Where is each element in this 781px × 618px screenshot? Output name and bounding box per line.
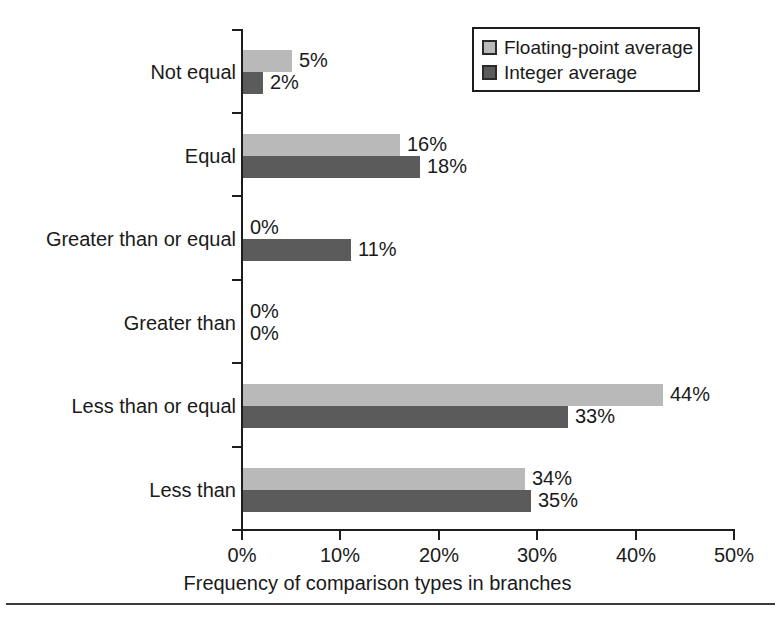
bar-integer-not-equal <box>243 72 263 94</box>
bar-value-floating-equal: 16% <box>407 133 447 155</box>
plot-area: Not equal 5% 2% Equal 16% 18% <box>0 0 781 618</box>
legend-swatch-icon-integer <box>482 65 497 80</box>
bar-floating-not-equal <box>243 50 292 72</box>
bar-value-floating-less-than-or-equal: 44% <box>670 383 710 405</box>
x-axis-tick <box>635 531 637 540</box>
y-axis-tick <box>232 279 242 281</box>
x-axis-tick <box>536 531 538 540</box>
y-axis-tick <box>232 29 242 31</box>
x-axis-tick-label-30: 30% <box>492 543 582 567</box>
bar-value-integer-greater-than-or-equal: 11% <box>358 238 397 260</box>
x-axis-line <box>241 529 735 531</box>
x-axis-tick-label-40: 40% <box>591 543 681 567</box>
x-axis-tick-label-50: 50% <box>689 543 779 567</box>
bar-floating-less-than-or-equal <box>243 384 663 406</box>
bar-value-integer-greater-than: 0% <box>250 322 279 344</box>
bar-chart-figure: Not equal 5% 2% Equal 16% 18% <box>0 0 781 618</box>
legend-label-integer-average: Integer average <box>504 62 637 83</box>
x-axis-tick-label-0: 0% <box>197 543 287 567</box>
bar-integer-less-than <box>243 490 531 512</box>
legend-label-floating-point-average: Floating-point average <box>504 37 693 58</box>
bar-value-floating-greater-than: 0% <box>250 300 279 322</box>
legend-item-integer-average: Integer average <box>482 60 698 85</box>
y-axis-tick <box>232 446 242 448</box>
chart-legend: Floating-point average Integer average <box>472 27 700 92</box>
x-axis-tick <box>438 531 440 540</box>
bar-value-integer-less-than-or-equal: 33% <box>575 405 615 427</box>
y-axis-tick <box>232 362 242 364</box>
bar-value-floating-less-than: 34% <box>532 467 572 489</box>
x-axis-tick <box>241 531 243 540</box>
bar-value-integer-equal: 18% <box>427 155 467 177</box>
category-label-greater-than-or-equal: Greater than or equal <box>0 228 236 250</box>
bar-integer-greater-than-or-equal <box>243 239 351 261</box>
category-label-greater-than: Greater than <box>0 312 236 334</box>
bar-floating-less-than <box>243 468 525 490</box>
y-axis-tick <box>232 112 242 114</box>
bottom-divider <box>6 603 775 605</box>
x-axis-tick <box>339 531 341 540</box>
bar-integer-less-than-or-equal <box>243 406 568 428</box>
category-label-less-than-or-equal: Less than or equal <box>0 395 236 417</box>
x-axis-tick-label-10: 10% <box>295 543 385 567</box>
bar-value-integer-less-than: 35% <box>538 489 578 511</box>
x-axis-tick-label-20: 20% <box>394 543 484 567</box>
x-axis-title: Frequency of comparison types in branche… <box>184 571 572 595</box>
bar-value-integer-not-equal: 2% <box>270 71 299 93</box>
bar-value-floating-not-equal: 5% <box>299 49 328 71</box>
bar-value-floating-greater-than-or-equal: 0% <box>250 216 279 238</box>
category-label-less-than: Less than <box>0 479 236 501</box>
bar-floating-equal <box>243 134 400 156</box>
y-axis-tick <box>232 195 242 197</box>
category-label-not-equal: Not equal <box>0 61 236 83</box>
legend-swatch-icon-floating-point <box>482 40 497 55</box>
bar-integer-equal <box>243 156 420 178</box>
x-axis-tick <box>733 531 735 540</box>
category-label-equal: Equal <box>0 145 236 167</box>
x-axis-title-wrapper: Frequency of comparison types in branche… <box>0 571 781 595</box>
legend-item-floating-point-average: Floating-point average <box>482 35 698 60</box>
